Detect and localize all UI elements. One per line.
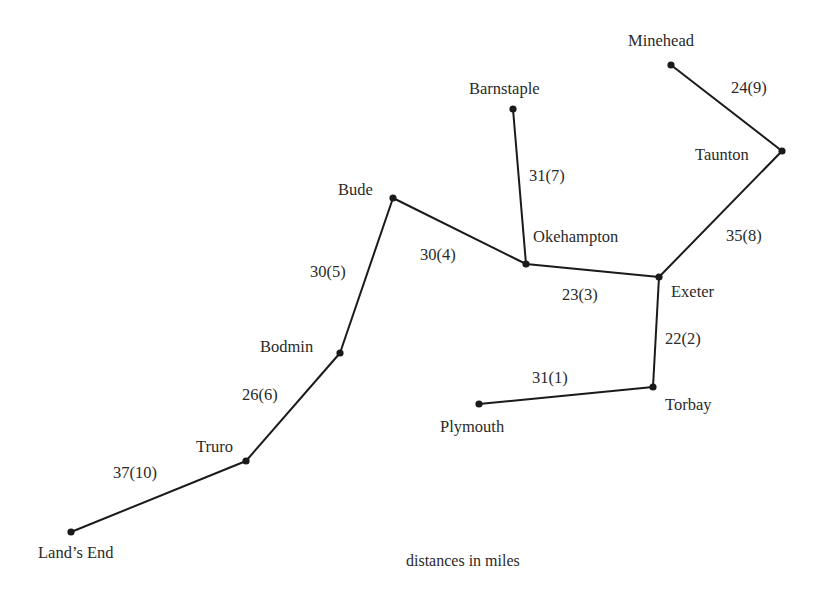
node-dot-torbay bbox=[649, 383, 656, 390]
edge-plymouth-torbay bbox=[479, 387, 653, 404]
edge-okehampton-bude bbox=[393, 198, 526, 264]
node-label-minehead: Minehead bbox=[628, 33, 694, 50]
node-dot-taunton bbox=[778, 147, 785, 154]
node-dot-bodmin bbox=[336, 349, 343, 356]
edge-weight-label: 30(4) bbox=[420, 247, 456, 264]
node-label-truro: Truro bbox=[196, 439, 233, 456]
edge-exeter-okehampton bbox=[526, 264, 659, 277]
edge-bodmin-truro bbox=[246, 353, 340, 461]
node-label-okehampton: Okehampton bbox=[533, 229, 618, 246]
edge-weight-label: 23(3) bbox=[562, 287, 598, 304]
node-label-barnstaple: Barnstaple bbox=[469, 81, 540, 98]
edge-weight-label: 35(8) bbox=[726, 228, 762, 245]
edge-weight-label: 31(1) bbox=[532, 370, 568, 387]
diagram-caption: distances in miles bbox=[406, 553, 520, 569]
node-dot-okehampton bbox=[522, 260, 529, 267]
node-label-torbay: Torbay bbox=[665, 397, 712, 414]
node-label-bodmin: Bodmin bbox=[260, 339, 313, 356]
node-label-exeter: Exeter bbox=[671, 284, 714, 301]
node-dot-truro bbox=[242, 457, 249, 464]
node-dot-lands_end bbox=[67, 528, 74, 535]
edge-exeter-taunton bbox=[659, 151, 782, 277]
edge-weight-label: 30(5) bbox=[310, 264, 346, 281]
node-dot-bude bbox=[389, 194, 396, 201]
node-label-bude: Bude bbox=[338, 182, 373, 199]
edge-weight-label: 26(6) bbox=[242, 387, 278, 404]
node-dot-exeter bbox=[655, 273, 662, 280]
edge-weight-label: 37(10) bbox=[113, 465, 157, 482]
node-dot-barnstaple bbox=[509, 105, 516, 112]
node-dot-minehead bbox=[667, 61, 674, 68]
node-label-plymouth: Plymouth bbox=[440, 419, 504, 436]
edge-weight-label: 22(2) bbox=[665, 331, 701, 348]
edge-truro-lands_end bbox=[71, 461, 246, 532]
minimum-spanning-tree-diagram: 31(1)22(2)23(3)30(4)30(5)26(6)31(7)35(8)… bbox=[0, 0, 820, 595]
node-label-lands_end: Land’s End bbox=[38, 545, 114, 562]
edge-barnstaple-okehampton bbox=[513, 109, 526, 264]
node-dot-plymouth bbox=[475, 400, 482, 407]
edge-torbay-exeter bbox=[653, 277, 659, 387]
edge-bude-bodmin bbox=[340, 198, 393, 353]
edge-weight-label: 24(9) bbox=[731, 80, 767, 97]
node-label-taunton: Taunton bbox=[695, 147, 749, 164]
edge-weight-label: 31(7) bbox=[529, 168, 565, 185]
